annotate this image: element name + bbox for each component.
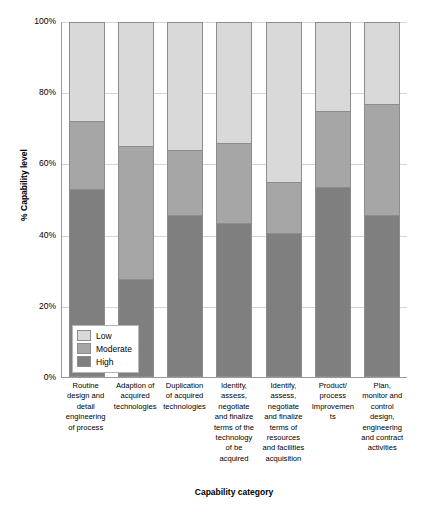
bar-segment-high[interactable] — [315, 187, 351, 377]
bar-segment-low[interactable] — [167, 22, 203, 150]
y-axis-tick-label: 60% — [16, 158, 56, 168]
bar-segment-high[interactable] — [266, 233, 302, 377]
legend-swatch-icon — [77, 343, 91, 354]
bar-segment-low[interactable] — [364, 22, 400, 104]
stacked-bar-chart: % Capability level 0%20%40%60%80%100% Ro… — [0, 0, 438, 518]
bar-segment-moderate[interactable] — [364, 104, 400, 216]
legend-item[interactable]: Low — [77, 329, 132, 342]
gridline — [62, 378, 407, 379]
bar-segment-low[interactable] — [315, 22, 351, 111]
x-axis-tick-label: Product/ process Improvements — [311, 381, 355, 464]
bar-columns — [62, 22, 407, 377]
bar-segment-moderate[interactable] — [167, 150, 203, 216]
bar-segment-moderate[interactable] — [266, 182, 302, 233]
bar-segment-low[interactable] — [69, 22, 105, 121]
x-axis-tick-label: Duplication of acquired technologies — [163, 381, 207, 464]
x-axis-tick-label: Plan, monitor and control design, engine… — [360, 381, 404, 464]
x-axis-tick-label: Adaption of acquired technologies — [113, 381, 157, 464]
bar-segment-high[interactable] — [216, 223, 252, 377]
bar-segment-high[interactable] — [167, 215, 203, 377]
bar-segment-high[interactable] — [364, 215, 400, 377]
legend-label: Low — [96, 331, 112, 341]
bar-column[interactable] — [364, 22, 400, 377]
y-axis-tick-label: 0% — [16, 372, 56, 382]
bar-segment-moderate[interactable] — [118, 146, 154, 279]
bar-column[interactable] — [167, 22, 203, 377]
bar-column[interactable] — [118, 22, 154, 377]
bar-segment-low[interactable] — [266, 22, 302, 182]
x-axis-tick-labels: Routine design and detail engineering of… — [61, 381, 407, 464]
legend-item[interactable]: High — [77, 355, 132, 368]
legend-swatch-icon — [77, 356, 91, 367]
y-axis-tick-label: 20% — [16, 301, 56, 311]
bar-segment-moderate[interactable] — [315, 111, 351, 187]
bar-segment-moderate[interactable] — [69, 121, 105, 188]
bar-segment-low[interactable] — [216, 22, 252, 143]
x-axis-tick-label: Routine design and detail engineering of… — [64, 381, 108, 464]
y-axis-tick-label: 40% — [16, 230, 56, 240]
chart-legend: LowModerateHigh — [72, 325, 139, 373]
bar-column[interactable] — [315, 22, 351, 377]
bar-segment-low[interactable] — [118, 22, 154, 146]
legend-item[interactable]: Moderate — [77, 342, 132, 355]
legend-label: Moderate — [96, 344, 132, 354]
x-axis-tick-label: Identify, assess, negotiate and finalize… — [261, 381, 305, 464]
y-axis-tick-label: 80% — [16, 87, 56, 97]
bar-column[interactable] — [216, 22, 252, 377]
y-axis-tick-label: 100% — [16, 16, 56, 26]
bar-column[interactable] — [69, 22, 105, 377]
x-axis-title: Capability category — [61, 487, 407, 497]
legend-label: High — [96, 357, 113, 367]
x-axis-tick-label: Identify, assess, negotiate and finalize… — [212, 381, 256, 464]
bar-segment-moderate[interactable] — [216, 143, 252, 223]
bar-column[interactable] — [266, 22, 302, 377]
legend-swatch-icon — [77, 330, 91, 341]
